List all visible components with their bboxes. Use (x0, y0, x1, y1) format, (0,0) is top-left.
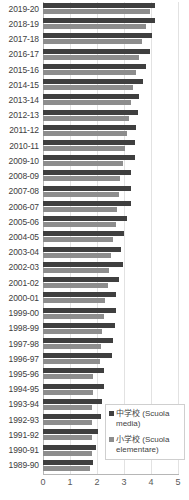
x-axis-tick-labels: 012345 (43, 477, 178, 491)
bar-chugakko (43, 3, 155, 8)
bar-chugakko (43, 64, 146, 69)
bar-chugakko (43, 201, 131, 206)
x-axis-label: 5 (175, 477, 180, 487)
bar-shogakko (43, 451, 92, 456)
bar-row (43, 246, 178, 261)
bar-chugakko (43, 140, 135, 145)
bar-chugakko (43, 110, 138, 115)
y-axis-label: 2008-09 (9, 172, 40, 181)
bar-shogakko (43, 329, 102, 334)
x-axis-label: 4 (148, 477, 153, 487)
y-axis-label: 2011-12 (9, 126, 39, 135)
bar-shogakko (43, 131, 127, 136)
bar-shogakko (43, 268, 109, 273)
bar-chugakko (43, 323, 115, 328)
bar-chart: 2019-202018-192017-182016-172015-162014-… (0, 0, 189, 500)
y-axis-label: 2002-03 (9, 263, 40, 272)
bar-shogakko (43, 420, 92, 425)
bar-chugakko (43, 384, 104, 389)
bar-shogakko (43, 298, 105, 303)
bar-row (43, 307, 178, 322)
bar-shogakko (43, 283, 108, 288)
bar-row (43, 459, 178, 474)
bar-shogakko (43, 100, 131, 105)
y-axis-label: 1997-98 (9, 340, 40, 349)
bar-shogakko (43, 116, 129, 121)
bar-row (43, 139, 178, 154)
bar-row (43, 124, 178, 139)
bar-shogakko (43, 405, 92, 410)
bar-chugakko (43, 292, 116, 297)
legend-swatch-icon (109, 437, 114, 442)
y-axis-label: 2018-19 (9, 20, 40, 29)
y-axis-label: 1989-90 (9, 461, 40, 470)
bar-shogakko (43, 374, 93, 379)
y-axis-label: 2009-10 (9, 157, 40, 166)
bar-row (43, 17, 178, 32)
bar-chugakko (43, 338, 113, 343)
bar-chugakko (43, 94, 139, 99)
y-axis-label: 1994-95 (9, 385, 40, 394)
bar-row (43, 109, 178, 124)
bar-shogakko (43, 176, 120, 181)
bar-shogakko (43, 55, 139, 60)
bar-chugakko (43, 216, 127, 221)
bar-row (43, 352, 178, 367)
bar-row (43, 337, 178, 352)
bar-shogakko (43, 24, 146, 29)
y-axis-label: 2019-20 (9, 5, 40, 14)
bar-shogakko (43, 390, 93, 395)
y-axis-label: 2016-17 (9, 50, 40, 59)
bar-row (43, 63, 178, 78)
y-axis-label: 1995-96 (9, 370, 40, 379)
y-axis-label: 1993-94 (9, 400, 40, 409)
bar-row (43, 215, 178, 230)
y-axis-label: 1996-97 (9, 355, 40, 364)
bar-chugakko (43, 125, 136, 130)
bar-chugakko (43, 155, 135, 160)
y-axis-label: 1992-93 (9, 416, 40, 425)
bar-row (43, 32, 178, 47)
bar-chugakko (43, 368, 104, 373)
bar-row (43, 78, 178, 93)
bar-shogakko (43, 161, 123, 166)
bar-row (43, 93, 178, 108)
bar-shogakko (43, 466, 90, 471)
bar-chugakko (43, 414, 101, 419)
bar-shogakko (43, 314, 104, 319)
bar-chugakko (43, 262, 123, 267)
bar-chugakko (43, 231, 124, 236)
y-axis-label: 2017-18 (9, 35, 40, 44)
bar-shogakko (43, 85, 133, 90)
y-axis-label: 1991-92 (9, 431, 40, 440)
legend-swatch-icon (109, 411, 114, 416)
bar-chugakko (43, 277, 119, 282)
bar-row (43, 169, 178, 184)
y-axis-label: 2010-11 (9, 142, 39, 151)
bar-shogakko (43, 435, 92, 440)
bar-row (43, 48, 178, 63)
legend-entry[interactable]: 中学校 (Scuola media) (109, 409, 181, 428)
y-axis-label: 2012-13 (9, 111, 40, 120)
bar-row (43, 261, 178, 276)
bar-shogakko (43, 237, 113, 242)
y-axis-label: 2001-02 (9, 279, 40, 288)
bar-row (43, 200, 178, 215)
legend-entry[interactable]: 小学校 (Scuola elementare) (109, 435, 181, 454)
x-axis-label: 3 (121, 477, 126, 487)
bar-shogakko (43, 192, 119, 197)
y-axis-label: 2006-07 (9, 203, 40, 212)
bar-row (43, 322, 178, 337)
y-axis-label: 2007-08 (9, 187, 40, 196)
bar-chugakko (43, 79, 143, 84)
bar-row (43, 185, 178, 200)
y-axis-label: 2004-05 (9, 233, 40, 242)
bar-chugakko (43, 460, 93, 465)
y-axis-label: 1998-99 (9, 324, 40, 333)
bar-shogakko (43, 359, 100, 364)
bar-row (43, 367, 178, 382)
legend-label: 小学校 (Scuola elementare) (116, 435, 181, 454)
bar-chugakko (43, 308, 116, 313)
y-axis-label: 2015-16 (9, 66, 40, 75)
bar-chugakko (43, 247, 121, 252)
